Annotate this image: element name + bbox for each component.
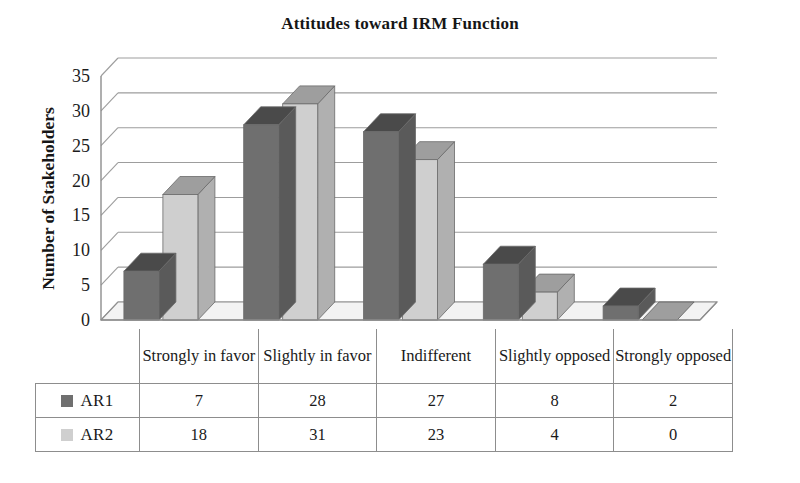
cell-ar1-4: 2 xyxy=(614,384,733,418)
legend-item-ar2: AR2 xyxy=(36,418,140,452)
y-tick-label-0: 0 xyxy=(81,310,90,330)
y-tick-label-25: 25 xyxy=(72,136,90,156)
y-tick-label-5: 5 xyxy=(81,275,90,295)
y-tick-label-30: 30 xyxy=(72,101,90,121)
plot-area: 05101520253035 xyxy=(0,0,800,340)
cell-ar1-3: 8 xyxy=(495,384,614,418)
bar-AR1-3 xyxy=(483,246,535,320)
legend-swatch-icon-ar2 xyxy=(61,429,73,441)
category-row-spacer xyxy=(36,329,140,384)
cell-ar2-3: 4 xyxy=(495,418,614,452)
table-row: AR1 7 28 27 8 2 xyxy=(36,384,733,418)
table-row: AR2 18 31 23 4 0 xyxy=(36,418,733,452)
legend-item-ar1: AR1 xyxy=(36,384,140,418)
category-label-0: Strongly in favor xyxy=(140,329,259,384)
category-label-2: Indifferent xyxy=(377,329,496,384)
bar-AR1-0 xyxy=(124,253,176,320)
bar-AR1-1 xyxy=(244,107,296,320)
legend-label-ar1: AR1 xyxy=(80,391,113,410)
cell-ar2-2: 23 xyxy=(377,418,496,452)
category-label-3: Slightly opposed xyxy=(495,329,614,384)
bars-group xyxy=(124,86,694,320)
y-tick-label-15: 15 xyxy=(72,205,90,225)
category-label-row: Strongly in favor Slightly in favor Indi… xyxy=(36,329,733,384)
cell-ar2-0: 18 xyxy=(140,418,259,452)
data-table: Strongly in favor Slightly in favor Indi… xyxy=(35,329,733,452)
bar-AR1-2 xyxy=(364,114,416,320)
cell-ar1-0: 7 xyxy=(140,384,259,418)
y-tick-label-10: 10 xyxy=(72,240,90,260)
y-tick-label-20: 20 xyxy=(72,171,90,191)
category-label-4: Strongly opposed xyxy=(614,329,733,384)
legend-label-ar2: AR2 xyxy=(80,425,113,444)
y-tick-labels: 05101520253035 xyxy=(72,66,90,330)
cell-ar1-2: 27 xyxy=(377,384,496,418)
cell-ar1-1: 28 xyxy=(258,384,377,418)
y-tick-label-35: 35 xyxy=(72,66,90,86)
chart-container: Attitudes toward IRM Function Number of … xyxy=(0,0,800,483)
cell-ar2-4: 0 xyxy=(614,418,733,452)
category-label-1: Slightly in favor xyxy=(258,329,377,384)
legend-swatch-icon-ar1 xyxy=(61,395,73,407)
cell-ar2-1: 31 xyxy=(258,418,377,452)
